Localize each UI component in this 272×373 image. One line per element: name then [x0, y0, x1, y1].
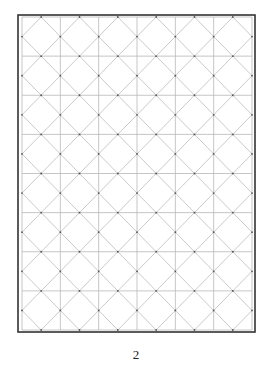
grid-dot [79, 133, 81, 135]
grid-dot [40, 173, 42, 175]
grid-dot [155, 251, 157, 253]
grid-dot [40, 290, 42, 292]
grid-dot [155, 55, 157, 57]
diamond-cell [137, 213, 175, 252]
grid-dot [117, 94, 119, 96]
grid-dot [232, 212, 234, 214]
diamond-cell [175, 213, 213, 252]
grid-dot [232, 251, 234, 253]
grid-dot [136, 231, 138, 233]
grid-dot [21, 75, 23, 77]
diamond-cell [60, 134, 98, 173]
grid-dot [117, 212, 119, 214]
grid-dot [136, 310, 138, 312]
grid-dot [251, 153, 253, 155]
diamond-cell [175, 134, 213, 173]
grid-dot [40, 251, 42, 253]
diamond-cell [22, 252, 60, 291]
grid-dot [213, 270, 215, 272]
diamond-cell [99, 17, 137, 56]
grid-dot [155, 290, 157, 292]
grid-dot [117, 16, 119, 18]
grid-dot [213, 75, 215, 77]
diamond-cell [175, 95, 213, 134]
grid-dot [194, 251, 196, 253]
grid-dot [251, 231, 253, 233]
diamond-cell [60, 252, 98, 291]
diamond-cell [214, 213, 252, 252]
grid-dot [98, 192, 100, 194]
diamond-cell [22, 56, 60, 95]
grid-dot [155, 94, 157, 96]
grid-dot [251, 310, 253, 312]
grid-dot [40, 16, 42, 18]
grid-dot [59, 270, 61, 272]
grid-dot [251, 270, 253, 272]
grid-dot [232, 173, 234, 175]
grid-dot [194, 173, 196, 175]
grid-dot [251, 114, 253, 116]
grid-dot [59, 310, 61, 312]
grid-dot [174, 192, 176, 194]
diamond-cell [175, 252, 213, 291]
grid-dot [232, 94, 234, 96]
diamond-cell [137, 174, 175, 213]
grid-dot [98, 310, 100, 312]
diamond-cell [22, 213, 60, 252]
grid-dot [98, 114, 100, 116]
grid-dot [98, 75, 100, 77]
diamond-cell [99, 213, 137, 252]
grid-dot [98, 36, 100, 38]
grid-dot [59, 153, 61, 155]
grid-dot [174, 270, 176, 272]
grid-dot [155, 133, 157, 135]
grid-dot [174, 75, 176, 77]
diamond-cell [60, 95, 98, 134]
grid-dot [21, 270, 23, 272]
grid-dot [79, 329, 81, 331]
diamond-cell [137, 56, 175, 95]
grid-dot [79, 55, 81, 57]
grid-dot [174, 114, 176, 116]
grid-dot [194, 290, 196, 292]
diamond-grid [0, 0, 272, 373]
grid-dot [232, 290, 234, 292]
grid-dot [232, 55, 234, 57]
grid-dot [59, 75, 61, 77]
diamond-cell [214, 134, 252, 173]
diamond-cell [60, 17, 98, 56]
diamond-cell [175, 291, 213, 330]
grid-dot [136, 36, 138, 38]
grid-dot [98, 231, 100, 233]
diamond-cell [137, 17, 175, 56]
grid-dot [174, 231, 176, 233]
diamond-cell [60, 56, 98, 95]
grid-dot [136, 270, 138, 272]
grid-dot [40, 55, 42, 57]
grid-dot [98, 270, 100, 272]
grid-dot [59, 231, 61, 233]
grid-dot [59, 192, 61, 194]
grid-dot [40, 212, 42, 214]
grid-dot [21, 114, 23, 116]
grid-dot [136, 75, 138, 77]
grid-dot [117, 290, 119, 292]
diamond-cell [22, 95, 60, 134]
diamond-cell [60, 213, 98, 252]
grid-dot [213, 192, 215, 194]
diamond-cell [99, 291, 137, 330]
grid-dot [21, 231, 23, 233]
grid-dot [79, 94, 81, 96]
grid-dot [251, 36, 253, 38]
grid-dot [194, 16, 196, 18]
grid-dot [194, 55, 196, 57]
diamond-cell [60, 291, 98, 330]
grid-dot [194, 94, 196, 96]
diamond-cell [214, 17, 252, 56]
grid-dot [174, 310, 176, 312]
page-number: 2 [0, 347, 272, 363]
grid-dot [232, 329, 234, 331]
grid-dot [117, 55, 119, 57]
diamond-cell [175, 174, 213, 213]
grid-dot [194, 212, 196, 214]
